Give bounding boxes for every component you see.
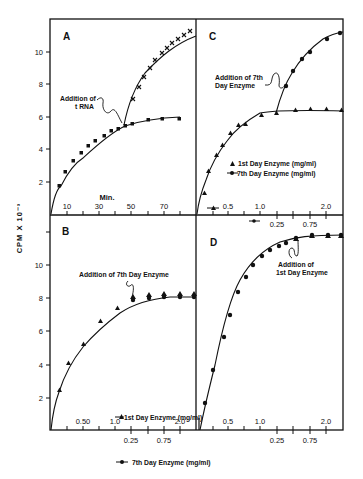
- b-x-tick-20: 2.0: [175, 417, 185, 426]
- b-y-tick-2: 2: [39, 394, 43, 403]
- a-annotation-line1: Addition of: [60, 95, 97, 102]
- b-annotation: Addition of 7th Day Enzyme: [79, 271, 169, 279]
- a-x-tick-50: 50: [127, 202, 135, 211]
- c-annotation-line1: Addition of 7th: [215, 74, 263, 81]
- a-y-tick-4: 4: [39, 145, 43, 154]
- b-y-tick-6: 6: [39, 327, 43, 336]
- a-x-tick-10: 10: [63, 202, 71, 211]
- a-trna-markers: [131, 29, 192, 101]
- a-y-tick-6: 6: [39, 113, 43, 122]
- a-annotation-arrow: [97, 98, 122, 123]
- d-circle-markers: [203, 241, 288, 405]
- c-7th-day-curve: [276, 32, 343, 113]
- b-x-tick-10: 1.0: [110, 417, 120, 426]
- a-x-axis-label: Min.: [100, 193, 115, 202]
- c-x-tick-10: 1.0: [255, 202, 265, 211]
- d-x-top-025: 0.25: [270, 220, 285, 229]
- d-x-tick-05: 0.5: [223, 417, 233, 426]
- panel-d-label: D: [210, 237, 217, 248]
- d-annotation-line2: 1st Day Enzyme: [276, 269, 328, 277]
- figure-canvas: CPM X 10⁻³ 10 8 6 4 2 10 8 6 4 2 A 10 30…: [0, 0, 363, 479]
- a-control-markers: [58, 117, 182, 188]
- b-y-tick-10: 10: [35, 261, 43, 270]
- a-annotation-line2: t RNA: [75, 103, 94, 110]
- panel-a-label: A: [63, 31, 70, 42]
- bottom-legend-label: 7th Day Enzyme (mg/ml): [132, 459, 211, 467]
- d-x-tick-20: 2.0: [321, 417, 331, 426]
- b-y-tick-4: 4: [39, 361, 43, 370]
- bottom-legend-circle-icon: [120, 460, 124, 464]
- a-y-tick-8: 8: [39, 80, 43, 89]
- y-axis-label: CPM X 10⁻³: [15, 203, 24, 254]
- c-legend-7th-day: 7th Day Enzyme (mg/ml): [237, 170, 316, 178]
- c-legend-triangle-icon: [230, 161, 235, 166]
- d-x-bottom-075: 0.75: [303, 436, 318, 445]
- d-x-bottom-025: 0.25: [270, 436, 285, 445]
- b-y-tick-8: 8: [39, 294, 43, 303]
- a-control-curve: [51, 117, 180, 214]
- c-triangle-markers: [202, 107, 344, 196]
- d-x-tick-10: 1.0: [255, 417, 265, 426]
- d-annotation-arrow: [289, 240, 298, 258]
- d-7th-day-curve: [200, 235, 343, 430]
- c-annotation-arrow: [265, 73, 285, 88]
- d-x-top-075: 0.75: [303, 220, 318, 229]
- c-legend-1st-day: 1st Day Enzyme (mg/ml): [238, 160, 316, 168]
- panel-b-label: B: [62, 226, 69, 237]
- c-annotation-line2: Day Enzyme: [215, 82, 255, 90]
- a-x-tick-30: 30: [95, 202, 103, 211]
- a-trna-curve: [124, 36, 196, 125]
- b-legend-1st-day: 1st Day Enzyme (mg/ml): [124, 414, 202, 422]
- b-x-bottom-025: 0.25: [124, 436, 139, 445]
- c-x-tick-05: 0.5: [223, 202, 233, 211]
- d-annotation-line1: Addition of: [278, 261, 315, 268]
- b-1st-day-curve: [51, 297, 196, 430]
- a-x-tick-70: 70: [160, 202, 168, 211]
- a-y-tick-10: 10: [35, 48, 43, 57]
- b-triangle-markers: [57, 306, 120, 393]
- b-x-tick-050: 0.50: [76, 417, 91, 426]
- b-x-bottom-075: 0.75: [157, 436, 172, 445]
- b-annotation-arrow: [126, 281, 133, 297]
- panel-c-label: C: [209, 31, 216, 42]
- c-x-tick-20: 2.0: [321, 202, 331, 211]
- c-circle-markers: [284, 31, 342, 88]
- a-y-tick-2: 2: [39, 178, 43, 187]
